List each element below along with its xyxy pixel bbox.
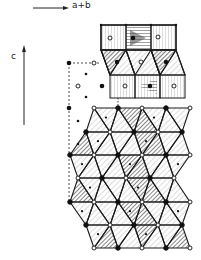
middle-octahedral-layer — [110, 75, 185, 108]
upper-octahedral-layer — [100, 24, 177, 50]
crystal-structure-diagram — [0, 0, 201, 260]
axis-arrow-c — [22, 45, 26, 125]
sheared-layer — [101, 50, 185, 75]
lower-close-packed-block — [68, 106, 192, 251]
axis-arrow-a-plus-b — [33, 6, 69, 10]
